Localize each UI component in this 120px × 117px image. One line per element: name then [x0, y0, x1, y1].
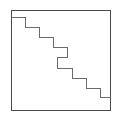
figure-root [0, 0, 120, 117]
staircase-figure-svg [0, 0, 120, 117]
